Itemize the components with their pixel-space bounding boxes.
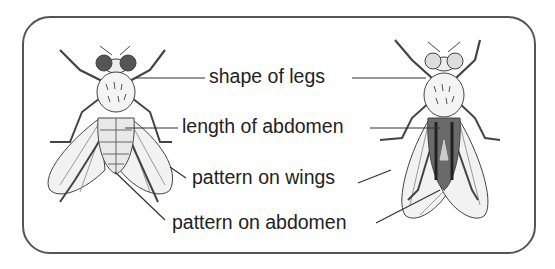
label-pattern-on-abdomen: pattern on abdomen [172,213,347,233]
label-length-of-abdomen: length of abdomen [182,117,344,137]
label-shape-of-legs: shape of legs [209,67,325,87]
leader-lines [115,78,440,223]
label-pattern-on-wings: pattern on wings [192,168,335,188]
left-fly-illustration [48,46,173,202]
right-fly-illustration [380,40,500,218]
